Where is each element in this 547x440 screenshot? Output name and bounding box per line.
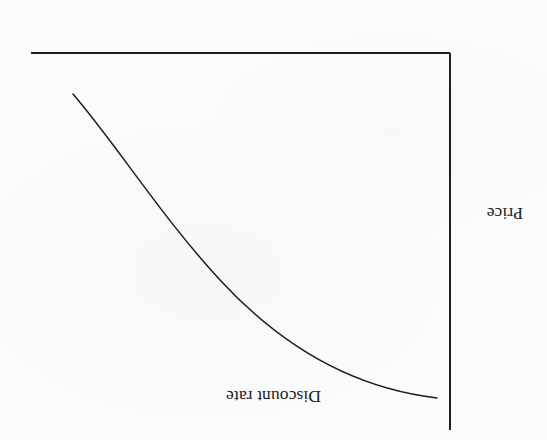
price-discount-rate-plot (0, 0, 547, 440)
figure-page: Discount rate Price (0, 0, 547, 440)
x-axis-label: Discount rate (0, 388, 547, 406)
rotated-figure-container: Discount rate Price (0, 0, 547, 440)
price-yield-curve (73, 94, 437, 398)
y-axis-label: Price (487, 205, 523, 223)
